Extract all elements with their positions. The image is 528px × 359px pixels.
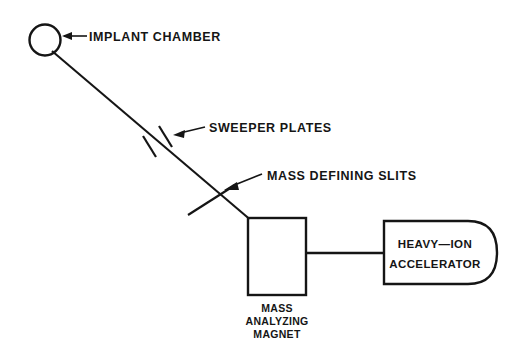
mass-analyzing-magnet-caption-line-3: MAGNET — [253, 328, 301, 340]
mass-analyzing-magnet-caption-line-1: MASS — [261, 302, 293, 314]
implant-chamber-circle — [30, 25, 61, 56]
heavy-ion-accelerator-label-line-2: ACCELERATOR — [389, 258, 481, 270]
sweeper-plates-arrow-icon — [173, 130, 185, 138]
heavy-ion-accelerator-label-line-1: HEAVY—ION — [398, 238, 472, 250]
mass-analyzing-magnet-caption-line-2: ANALYZING — [246, 315, 309, 327]
heavy-ion-accelerator-box — [384, 221, 497, 284]
mass-analyzing-magnet-box — [248, 218, 306, 295]
mass-defining-slits-label: MASS DEFINING SLITS — [267, 169, 417, 183]
implant-chamber-arrow-icon — [62, 32, 72, 40]
figure-canvas: IMPLANT CHAMBER SWEEPER PLATES MASS DEFI… — [0, 0, 528, 359]
implant-chamber-label: IMPLANT CHAMBER — [89, 30, 221, 44]
beamline-schematic: IMPLANT CHAMBER SWEEPER PLATES MASS DEFI… — [0, 0, 528, 359]
mass-defining-slits-line — [188, 187, 232, 215]
mass-defining-slits-arrow-icon — [224, 182, 239, 190]
sweeper-plates-label: SWEEPER PLATES — [209, 121, 332, 135]
